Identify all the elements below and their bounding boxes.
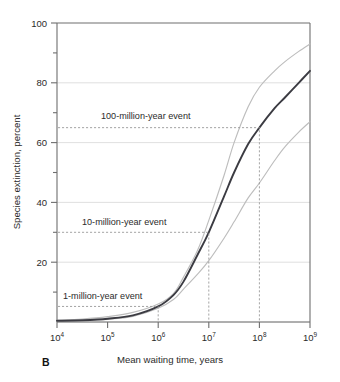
figure-background: [0, 0, 340, 382]
y-tick-label-100: 100: [31, 18, 47, 29]
chart-svg: 100 80 60 40 20 104 105 106 107 108 109: [0, 0, 340, 382]
y-tick-label-60: 60: [36, 137, 47, 148]
extinction-waiting-time-figure: 100 80 60 40 20 104 105 106 107 108 109: [0, 0, 340, 382]
y-tick-label-20: 20: [36, 257, 47, 268]
y-axis-title: Species extinction, percent: [11, 114, 22, 229]
annotation-1-million-year-event: 1-million-year event: [63, 291, 143, 301]
panel-label: B: [42, 356, 50, 368]
y-tick-label-40: 40: [36, 197, 47, 208]
annotation-100-million-year-event: 100-million-year event: [101, 111, 191, 121]
annotation-10-million-year-event: 10-million-year event: [82, 217, 167, 227]
x-axis-title: Mean waiting time, years: [117, 354, 223, 365]
y-tick-label-80: 80: [36, 77, 47, 88]
